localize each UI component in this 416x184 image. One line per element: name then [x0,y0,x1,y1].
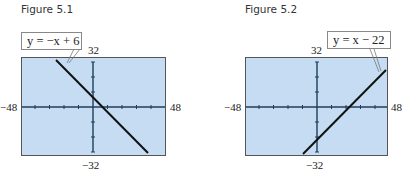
figure-2-xmin-label: −48 [224,101,242,113]
figure-2-equation: y = x − 22 [333,33,385,47]
figure-1-graph: −48 48 32 −32 y = −x + 6 [0,33,182,172]
figure-1-ymax-label: 32 [88,44,99,56]
figure-1-ymin-label: −32 [82,159,99,171]
figure-2-graph: −48 48 32 −32 y = x − 22 [224,32,403,172]
figure-1-equation: y = −x + 6 [27,34,79,48]
figure-2-ymax-label: 32 [311,44,322,56]
figure-2-ymin-label: −32 [306,159,323,171]
figure-1-xmax-label: 48 [170,101,182,113]
figures-canvas: −48 48 32 −32 y = −x + 6 [0,0,416,184]
figure-2-xmax-label: 48 [391,101,403,113]
figure-1-xmin-label: −48 [0,101,18,113]
